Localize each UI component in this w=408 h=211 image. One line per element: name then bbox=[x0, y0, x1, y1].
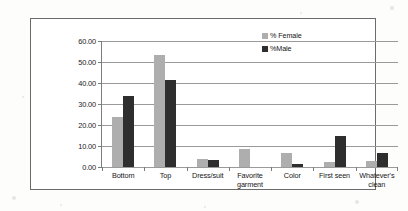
bar-series-container bbox=[102, 41, 398, 167]
scan-speck bbox=[300, 12, 302, 14]
legend-item[interactable]: % Female bbox=[240, 29, 315, 42]
bar-male[interactable] bbox=[292, 164, 303, 167]
female-swatch bbox=[262, 33, 268, 39]
chart-legend: % Female%Male bbox=[240, 29, 315, 55]
bar-group bbox=[187, 41, 229, 167]
scan-speck bbox=[355, 200, 359, 204]
legend-item[interactable]: %Male bbox=[240, 42, 315, 55]
legend-label: % Female bbox=[270, 31, 302, 40]
bar-group bbox=[356, 41, 398, 167]
bar-female[interactable] bbox=[197, 159, 208, 167]
bar-female[interactable] bbox=[112, 117, 123, 167]
gridline bbox=[101, 167, 398, 168]
x-axis-label: Favorite garment bbox=[229, 171, 271, 190]
y-tick-label: 20.00 bbox=[78, 121, 96, 130]
bar-female[interactable] bbox=[324, 162, 335, 167]
scan-speck bbox=[390, 6, 394, 10]
x-axis-labels: BottomTopDress/suitFavorite garmentColor… bbox=[102, 171, 398, 190]
bar-male[interactable] bbox=[123, 96, 134, 167]
bar-group bbox=[229, 41, 271, 167]
x-axis-label: Top bbox=[144, 171, 186, 190]
scan-speck bbox=[12, 196, 16, 200]
bar-female[interactable] bbox=[366, 161, 377, 167]
y-tick-label: 40.00 bbox=[78, 79, 96, 88]
y-tick-label: 50.00 bbox=[78, 58, 96, 67]
x-axis-label: Color bbox=[271, 171, 313, 190]
x-axis-label: First seen bbox=[313, 171, 355, 190]
y-tick-label: 60.00 bbox=[78, 37, 96, 46]
y-tick-label: 30.00 bbox=[78, 100, 96, 109]
scan-speck bbox=[60, 204, 62, 206]
x-axis-label: Whatever's clean bbox=[356, 171, 398, 190]
bar-female[interactable] bbox=[239, 149, 250, 167]
x-axis-label: Bottom bbox=[102, 171, 144, 190]
scan-speck bbox=[22, 96, 24, 98]
y-tick-label: 10.00 bbox=[78, 142, 96, 151]
bar-female[interactable] bbox=[281, 153, 292, 167]
chart-frame: Percent of Respondents 60.0050.0040.0030… bbox=[30, 18, 376, 190]
bar-male[interactable] bbox=[208, 160, 219, 167]
legend-label: %Male bbox=[270, 44, 291, 53]
bar-male[interactable] bbox=[165, 80, 176, 167]
bar-group bbox=[271, 41, 313, 167]
bar-female[interactable] bbox=[154, 55, 165, 167]
bar-group bbox=[102, 41, 144, 167]
y-tick-label: 0.00 bbox=[82, 163, 96, 172]
plot-area: 60.0050.0040.0030.0020.0010.000.00 bbox=[101, 41, 398, 167]
bar-group bbox=[144, 41, 186, 167]
bar-male[interactable] bbox=[335, 136, 346, 168]
male-swatch bbox=[262, 46, 268, 52]
bar-male[interactable] bbox=[377, 153, 388, 167]
scan-speck bbox=[204, 206, 206, 208]
x-axis-label: Dress/suit bbox=[187, 171, 229, 190]
bar-group bbox=[313, 41, 355, 167]
